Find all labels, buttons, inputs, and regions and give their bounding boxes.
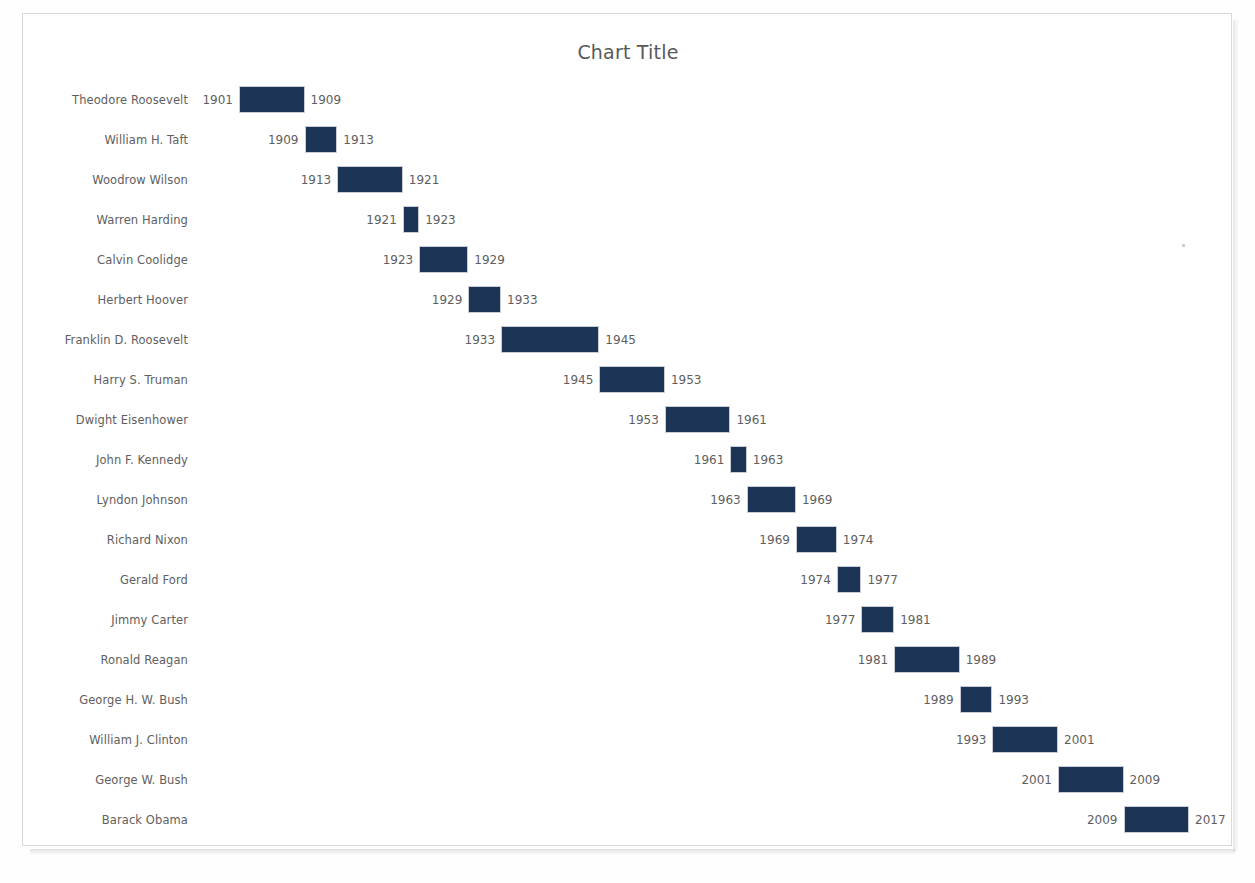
gantt-bar[interactable] <box>665 406 731 433</box>
gantt-bar[interactable] <box>337 166 403 193</box>
bar-start-year-label: 1901 <box>202 80 239 120</box>
bar-start-year-label: 1969 <box>759 520 796 560</box>
category-label: Franklin D. Roosevelt <box>23 320 188 360</box>
gantt-row[interactable]: Lyndon Johnson19631969 <box>23 480 1233 520</box>
gantt-bar[interactable] <box>239 86 305 113</box>
gantt-row[interactable]: Harry S. Truman19451953 <box>23 360 1233 400</box>
category-label: William J. Clinton <box>23 720 188 760</box>
gantt-row[interactable]: George H. W. Bush19891993 <box>23 680 1233 720</box>
page-root: Chart Title Theodore Roosevelt19011909Wi… <box>0 0 1255 883</box>
gantt-bar[interactable] <box>501 326 599 353</box>
gantt-bar[interactable] <box>419 246 468 273</box>
bar-end-year-label: 1929 <box>468 240 505 280</box>
gantt-row[interactable]: Franklin D. Roosevelt19331945 <box>23 320 1233 360</box>
gantt-row[interactable]: Gerald Ford19741977 <box>23 560 1233 600</box>
gantt-row[interactable]: Herbert Hoover19291933 <box>23 280 1233 320</box>
bar-start-year-label: 2009 <box>1087 800 1124 840</box>
bar-end-year-label: 1953 <box>665 360 702 400</box>
gantt-row[interactable]: John F. Kennedy19611963 <box>23 440 1233 480</box>
gantt-row[interactable]: Ronald Reagan19811989 <box>23 640 1233 680</box>
bar-end-year-label: 1969 <box>796 480 833 520</box>
gantt-row[interactable]: Theodore Roosevelt19011909 <box>23 80 1233 120</box>
gantt-row[interactable]: Woodrow Wilson19131921 <box>23 160 1233 200</box>
page-shadow-bottom <box>30 849 1235 855</box>
category-label: Lyndon Johnson <box>23 480 188 520</box>
bar-end-year-label: 1977 <box>861 560 898 600</box>
bar-end-year-label: 1933 <box>501 280 538 320</box>
gantt-bar[interactable] <box>960 686 993 713</box>
gantt-bar[interactable] <box>992 726 1058 753</box>
bar-start-year-label: 1921 <box>366 200 403 240</box>
bar-start-year-label: 1993 <box>956 720 993 760</box>
bar-start-year-label: 1923 <box>383 240 420 280</box>
bar-end-year-label: 1913 <box>337 120 374 160</box>
category-label: George H. W. Bush <box>23 680 188 720</box>
gantt-row[interactable]: Warren Harding19211923 <box>23 200 1233 240</box>
bar-start-year-label: 1933 <box>465 320 502 360</box>
gantt-row[interactable]: Barack Obama20092017 <box>23 800 1233 840</box>
plot-area[interactable]: Theodore Roosevelt19011909William H. Taf… <box>23 14 1233 847</box>
bar-start-year-label: 1974 <box>800 560 837 600</box>
gantt-row[interactable]: Richard Nixon19691974 <box>23 520 1233 560</box>
gantt-row[interactable]: Calvin Coolidge19231929 <box>23 240 1233 280</box>
bar-start-year-label: 1913 <box>301 160 338 200</box>
gantt-row[interactable]: William J. Clinton19932001 <box>23 720 1233 760</box>
bar-start-year-label: 1977 <box>825 600 862 640</box>
category-label: George W. Bush <box>23 760 188 800</box>
bar-end-year-label: 1961 <box>730 400 767 440</box>
category-label: Woodrow Wilson <box>23 160 188 200</box>
bar-start-year-label: 1929 <box>432 280 469 320</box>
category-label: Calvin Coolidge <box>23 240 188 280</box>
bar-start-year-label: 1989 <box>923 680 960 720</box>
bar-end-year-label: 1921 <box>403 160 440 200</box>
category-label: Harry S. Truman <box>23 360 188 400</box>
gantt-bar[interactable] <box>796 526 837 553</box>
bar-end-year-label: 2009 <box>1124 760 1161 800</box>
bar-end-year-label: 1945 <box>599 320 636 360</box>
bar-end-year-label: 1989 <box>960 640 997 680</box>
bar-start-year-label: 1963 <box>710 480 747 520</box>
category-label: William H. Taft <box>23 120 188 160</box>
chart-frame[interactable]: Chart Title Theodore Roosevelt19011909Wi… <box>22 13 1232 846</box>
gantt-bar[interactable] <box>403 206 419 233</box>
bar-end-year-label: 2001 <box>1058 720 1095 760</box>
category-label: Dwight Eisenhower <box>23 400 188 440</box>
bar-start-year-label: 1909 <box>268 120 305 160</box>
gantt-bar[interactable] <box>894 646 960 673</box>
category-label: Herbert Hoover <box>23 280 188 320</box>
category-label: Barack Obama <box>23 800 188 840</box>
bar-start-year-label: 1981 <box>858 640 895 680</box>
stray-speck-artifact <box>1182 244 1185 247</box>
gantt-bar[interactable] <box>1058 766 1124 793</box>
category-label: Theodore Roosevelt <box>23 80 188 120</box>
gantt-row[interactable]: George W. Bush20012009 <box>23 760 1233 800</box>
bar-end-year-label: 1923 <box>419 200 456 240</box>
category-label: Ronald Reagan <box>23 640 188 680</box>
page-shadow-right <box>1233 20 1239 852</box>
bar-end-year-label: 1909 <box>305 80 342 120</box>
bar-start-year-label: 1945 <box>563 360 600 400</box>
gantt-bar[interactable] <box>599 366 665 393</box>
category-label: Richard Nixon <box>23 520 188 560</box>
bar-start-year-label: 1961 <box>694 440 731 480</box>
category-label: Gerald Ford <box>23 560 188 600</box>
bar-end-year-label: 2017 <box>1189 800 1226 840</box>
category-label: Warren Harding <box>23 200 188 240</box>
category-label: Jimmy Carter <box>23 600 188 640</box>
gantt-row[interactable]: William H. Taft19091913 <box>23 120 1233 160</box>
gantt-bar[interactable] <box>1124 806 1190 833</box>
category-label: John F. Kennedy <box>23 440 188 480</box>
bar-start-year-label: 2001 <box>1021 760 1058 800</box>
bar-start-year-label: 1953 <box>628 400 665 440</box>
gantt-row[interactable]: Dwight Eisenhower19531961 <box>23 400 1233 440</box>
gantt-bar[interactable] <box>305 126 338 153</box>
bar-end-year-label: 1963 <box>747 440 784 480</box>
gantt-bar[interactable] <box>837 566 862 593</box>
bar-end-year-label: 1993 <box>992 680 1029 720</box>
gantt-bar[interactable] <box>747 486 796 513</box>
gantt-bar[interactable] <box>730 446 746 473</box>
gantt-bar[interactable] <box>861 606 894 633</box>
gantt-bar[interactable] <box>468 286 501 313</box>
bar-end-year-label: 1981 <box>894 600 931 640</box>
gantt-row[interactable]: Jimmy Carter19771981 <box>23 600 1233 640</box>
